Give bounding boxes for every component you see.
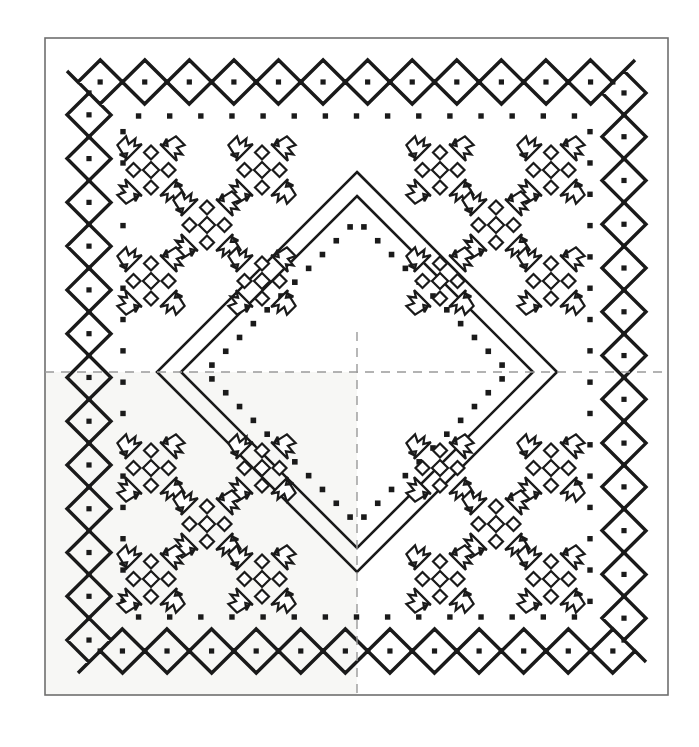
chevron-dot [521,79,526,84]
diamond-dot [375,238,381,244]
border-dot [260,113,265,118]
border-dot [229,614,234,619]
chevron-dot [98,648,103,653]
pattern-canvas [0,0,699,747]
chevron-dot [86,440,91,445]
diamond-dot [237,335,243,341]
border-dot [509,113,514,118]
chevron-dot [365,79,370,84]
border-dot [587,473,592,478]
chevron-dot [86,594,91,599]
chevron-dot [454,648,459,653]
chevron-dot [621,244,626,249]
border-dot [587,254,592,259]
border-dot [292,614,297,619]
chevron-dot [120,648,125,653]
border-dot [167,113,172,118]
chevron-dot [86,200,91,205]
floral-motif [517,434,584,501]
floral-motif [228,545,295,612]
border-dot [120,348,125,353]
border-dot [120,411,125,416]
border-dot [120,505,125,510]
chevron-dot [621,572,626,577]
border-dot [587,442,592,447]
diamond-dot [347,514,353,520]
chevron-dot [621,506,626,511]
border-dot [167,614,172,619]
diamond-dot [458,321,464,327]
floral-motif [517,545,584,612]
floral-motif [117,136,184,203]
pattern-drawing [0,0,699,747]
border-dot [587,505,592,510]
chevron-dot [86,375,91,380]
border-dot [587,286,592,291]
chevron-dot [621,375,626,380]
chevron-dot [432,648,437,653]
chevron-dot [298,79,303,84]
chevron-dot [621,594,626,599]
diamond-dot [444,307,450,313]
border-dot [587,223,592,228]
chevron-dot [86,90,91,95]
border-dot [120,160,125,165]
chevron-dot [499,79,504,84]
border-dot [447,614,452,619]
border-dot [323,614,328,619]
border-dot [198,113,203,118]
chevron-dot [588,79,593,84]
chevron-dot [499,648,504,653]
chevron-dot [521,648,526,653]
chevron-dot [387,648,392,653]
floral-motif [117,545,184,612]
border-dot [120,379,125,384]
chevron-dot [621,90,626,95]
chevron-dot [86,616,91,621]
chevron-dot [621,528,626,533]
border-dot [323,113,328,118]
diamond-dot [472,404,478,410]
border-dot [587,567,592,572]
chevron-dot [610,648,615,653]
chevron-dot [410,79,415,84]
chevron-dot [566,648,571,653]
border-dot [229,113,234,118]
diamond-dot [306,473,312,479]
chevron-dot [86,353,91,358]
diamond-dot [333,500,339,506]
floral-motif [117,434,184,501]
diamond-dot [264,431,270,437]
chevron-dot [142,648,147,653]
border-dot [587,192,592,197]
chevron-dot [410,648,415,653]
floral-motif [517,247,584,314]
chevron-dot [621,397,626,402]
chevron-dot [86,550,91,555]
chevron-dot [254,648,259,653]
chevron-dot [621,616,626,621]
border-dot [385,614,390,619]
border-dot [478,614,483,619]
chevron-dot [621,178,626,183]
diamond-dot [223,348,229,354]
chevron-dot [164,648,169,653]
chevron-dot [621,484,626,489]
chevron-dot [86,156,91,161]
chevron-dot [477,79,482,84]
border-dot [572,614,577,619]
floral-motif [517,136,584,203]
diamond-dot [209,362,215,368]
border-dot [587,160,592,165]
diamond-dot [264,307,270,313]
border-dot [509,614,514,619]
chevron-dot [164,79,169,84]
floral-motif [228,136,295,203]
border-dot [416,113,421,118]
chevron-dot [298,648,303,653]
chevron-dot [621,200,626,205]
chevron-dot [621,156,626,161]
diamond-dot [499,376,505,382]
border-dot [120,223,125,228]
border-dot [587,317,592,322]
